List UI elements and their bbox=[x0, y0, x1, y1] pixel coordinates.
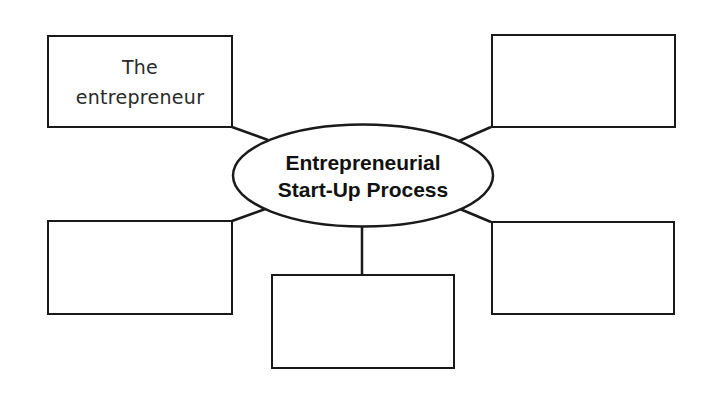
center-node-label: Entrepreneurial Start-Up Process bbox=[233, 124, 493, 227]
box-top-left[interactable]: The entrepreneur bbox=[47, 35, 233, 128]
box-bottom-left[interactable] bbox=[47, 220, 233, 315]
box-bottom-right[interactable] bbox=[491, 221, 675, 315]
box-bottom-center[interactable] bbox=[271, 274, 455, 369]
box-top-left-line-1: The bbox=[122, 52, 158, 82]
center-label-line-2: Start-Up Process bbox=[278, 176, 448, 203]
box-top-right[interactable] bbox=[491, 34, 676, 128]
center-label-line-1: Entrepreneurial bbox=[285, 149, 440, 176]
box-top-left-line-2: entrepreneur bbox=[76, 82, 205, 112]
concept-map-canvas: Entrepreneurial Start-Up Process The ent… bbox=[0, 0, 714, 402]
